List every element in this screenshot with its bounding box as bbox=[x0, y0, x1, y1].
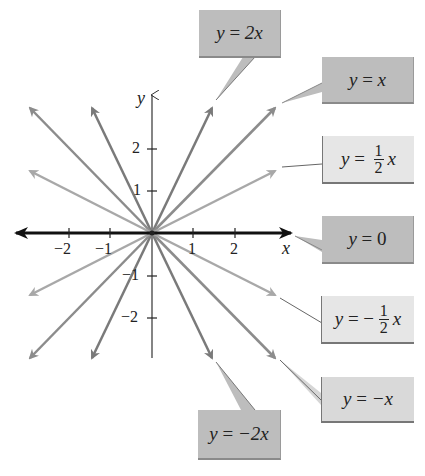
y-tick-label: 2 bbox=[132, 139, 140, 157]
fraction: 12 bbox=[374, 143, 384, 176]
label-rhs: x bbox=[378, 69, 386, 91]
label-rhs: −x bbox=[372, 388, 393, 410]
x-tick-label: 1 bbox=[188, 240, 196, 258]
label-y-equals-half-x: y = 12 x bbox=[322, 136, 414, 184]
x-axis-label: x bbox=[282, 238, 290, 259]
label-y-equals-neg-x: y = −x bbox=[321, 377, 414, 423]
label-rhs: 2x bbox=[245, 22, 263, 44]
fraction: 12 bbox=[379, 303, 389, 336]
label-eq: = bbox=[349, 148, 369, 170]
label-lhs: y bbox=[209, 423, 217, 445]
label-var: x bbox=[393, 308, 401, 330]
label-lhs: y bbox=[343, 388, 351, 410]
numerator: 1 bbox=[379, 303, 389, 320]
denominator: 2 bbox=[380, 320, 388, 336]
label-rhs: 0 bbox=[377, 228, 387, 250]
y-axis-label: y bbox=[137, 88, 145, 109]
y-tick-label: −2 bbox=[121, 308, 138, 326]
label-eq: = bbox=[225, 22, 245, 44]
label-lhs: y bbox=[348, 228, 356, 250]
denominator: 2 bbox=[375, 160, 383, 176]
label-eq: = − bbox=[343, 308, 379, 330]
label-var: x bbox=[388, 148, 396, 170]
label-y-equals-neg-2x: y = −2x bbox=[198, 410, 281, 460]
label-eq: = bbox=[351, 388, 371, 410]
label-eq: = bbox=[357, 69, 377, 91]
label-y-equals-0: y = 0 bbox=[322, 216, 414, 264]
label-rhs: −2x bbox=[238, 423, 269, 445]
label-y-equals-x: y = x bbox=[322, 57, 414, 104]
x-tick-label: 2 bbox=[230, 240, 238, 258]
label-y-equals-neg-half-x: y = − 12x bbox=[321, 296, 414, 344]
y-tick-label: −1 bbox=[122, 266, 139, 284]
label-y-equals-2x: y = 2x bbox=[199, 10, 281, 58]
label-lhs: y bbox=[349, 69, 357, 91]
x-tick-label: −2 bbox=[54, 240, 71, 258]
label-lhs: y bbox=[335, 308, 343, 330]
numerator: 1 bbox=[374, 143, 384, 160]
label-lhs: y bbox=[216, 22, 224, 44]
x-tick-label: −1 bbox=[95, 240, 112, 258]
label-eq: = bbox=[218, 423, 238, 445]
y-tick-label: 1 bbox=[133, 181, 141, 199]
label-eq: = bbox=[357, 228, 377, 250]
label-lhs: y bbox=[341, 148, 349, 170]
